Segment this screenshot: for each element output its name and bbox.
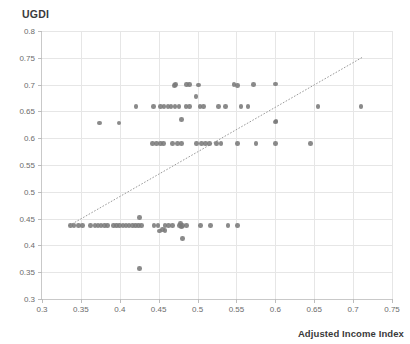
data-point <box>251 82 256 87</box>
data-point <box>235 223 240 228</box>
data-point <box>235 83 240 88</box>
y-axis-tick <box>38 245 42 246</box>
data-point <box>187 104 192 109</box>
x-axis-tick-label: 0.55 <box>229 305 245 314</box>
x-axis-tick-label: 0.45 <box>151 305 167 314</box>
grid-line-vertical <box>81 31 82 299</box>
plot-area: 0.30.350.40.450.50.550.60.650.70.750.80.… <box>42 31 392 299</box>
y-axis-tick-label: 0.4 <box>24 241 35 250</box>
grid-line-horizontal <box>42 272 392 273</box>
data-point <box>184 223 189 228</box>
grid-line-horizontal <box>42 31 392 32</box>
data-point <box>194 94 199 99</box>
grid-line-vertical <box>353 31 354 299</box>
x-axis-tick <box>275 299 276 303</box>
data-point <box>196 83 201 88</box>
grid-line-vertical <box>392 31 393 299</box>
grid-line-horizontal <box>42 165 392 166</box>
data-point <box>239 104 244 109</box>
data-point <box>273 141 278 146</box>
data-point <box>235 141 240 146</box>
data-point <box>216 104 221 109</box>
y-axis-tick-label: 0.35 <box>19 268 35 277</box>
scatter-chart: UGDI 0.30.350.40.450.50.550.60.650.70.75… <box>0 0 410 344</box>
y-axis-tick-label: 0.65 <box>19 107 35 116</box>
data-point <box>198 223 203 228</box>
grid-line-horizontal <box>42 245 392 246</box>
data-point <box>308 141 313 146</box>
y-axis-tick-label: 0.45 <box>19 214 35 223</box>
grid-line-horizontal <box>42 192 392 193</box>
data-point <box>246 104 251 109</box>
data-point <box>179 225 184 230</box>
data-point <box>105 223 110 228</box>
data-point <box>97 121 102 126</box>
data-point <box>201 104 206 109</box>
y-axis-tick-label: 0.8 <box>24 27 35 36</box>
x-axis-tick <box>353 299 354 303</box>
grid-line-vertical <box>198 31 199 299</box>
data-point <box>208 223 213 228</box>
x-axis-tick <box>198 299 199 303</box>
data-point <box>214 141 219 146</box>
x-axis-tick <box>159 299 160 303</box>
grid-line-vertical <box>120 31 121 299</box>
x-axis-tick <box>81 299 82 303</box>
grid-line-horizontal <box>42 219 392 220</box>
grid-line-horizontal <box>42 58 392 59</box>
y-axis-tick-label: 0.7 <box>24 80 35 89</box>
y-axis-tick-label: 0.3 <box>24 295 35 304</box>
y-axis-title: UGDI <box>22 8 49 20</box>
x-axis-tick-label: 0.35 <box>73 305 89 314</box>
y-axis-tick <box>38 111 42 112</box>
grid-line-vertical <box>159 31 160 299</box>
grid-line-vertical <box>236 31 237 299</box>
data-point <box>274 119 279 124</box>
x-axis-tick <box>42 299 43 303</box>
x-axis-tick-label: 0.75 <box>384 305 400 314</box>
data-point <box>80 223 85 228</box>
y-axis-tick-label: 0.6 <box>24 134 35 143</box>
grid-line-vertical <box>275 31 276 299</box>
data-point <box>273 82 278 87</box>
data-point <box>179 117 184 122</box>
x-axis-tick <box>392 299 393 303</box>
data-point <box>316 104 321 109</box>
data-point <box>223 104 228 109</box>
y-axis-tick <box>38 58 42 59</box>
x-axis-line <box>41 299 392 300</box>
data-point <box>177 104 182 109</box>
grid-line-horizontal <box>42 85 392 86</box>
data-point <box>254 141 259 146</box>
y-axis-tick-label: 0.5 <box>24 187 35 196</box>
x-axis-tick <box>314 299 315 303</box>
x-axis-tick-label: 0.65 <box>306 305 322 314</box>
y-axis-tick <box>38 272 42 273</box>
x-axis-tick-label: 0.7 <box>348 305 359 314</box>
data-point <box>137 266 142 271</box>
y-axis-tick <box>38 165 42 166</box>
data-point <box>207 141 212 146</box>
x-axis-tick-label: 0.5 <box>192 305 203 314</box>
x-axis-tick <box>120 299 121 303</box>
data-point <box>187 82 192 87</box>
y-axis-tick-label: 0.75 <box>19 53 35 62</box>
data-point <box>173 82 178 87</box>
data-point <box>170 223 175 228</box>
data-point <box>163 228 168 233</box>
data-point <box>180 236 185 241</box>
y-axis-tick <box>38 192 42 193</box>
grid-line-vertical <box>314 31 315 299</box>
data-point <box>134 104 139 109</box>
y-axis-tick-label: 0.55 <box>19 161 35 170</box>
x-axis-tick <box>236 299 237 303</box>
x-axis-tick-label: 0.6 <box>270 305 281 314</box>
grid-line-horizontal <box>42 138 392 139</box>
data-point <box>157 229 162 234</box>
data-point <box>359 104 364 109</box>
y-axis-tick <box>38 219 42 220</box>
data-point <box>161 141 166 146</box>
y-axis-tick <box>38 31 42 32</box>
data-point <box>226 223 231 228</box>
data-point <box>88 223 93 228</box>
